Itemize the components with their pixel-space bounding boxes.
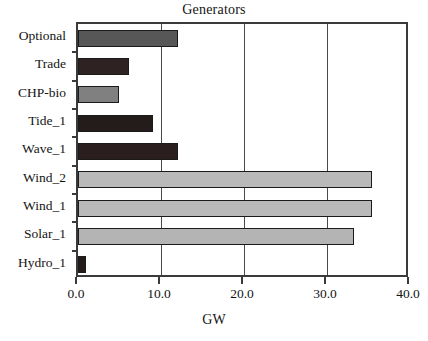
x-axis-tick xyxy=(241,277,243,284)
plot-area xyxy=(76,22,408,277)
x-axis-tick-label: 10.0 xyxy=(129,286,189,302)
y-axis-label-wave-1: Wave_1 xyxy=(0,135,66,163)
y-axis-label-solar-1: Solar_1 xyxy=(0,220,66,248)
bar-wind-1 xyxy=(78,200,372,217)
y-axis-tick xyxy=(72,221,78,223)
y-axis-tick xyxy=(72,193,78,195)
bar-row xyxy=(78,222,354,250)
bar-optional xyxy=(78,30,178,47)
bar-row xyxy=(78,194,372,222)
y-axis-label-trade: Trade xyxy=(0,50,66,78)
bar-row xyxy=(78,166,372,194)
x-axis-ticks xyxy=(76,277,408,285)
bar-row xyxy=(78,81,119,109)
x-axis-tick-label: 40.0 xyxy=(378,286,428,302)
x-axis-tick xyxy=(324,277,326,284)
y-axis-tick xyxy=(72,108,78,110)
bar-row xyxy=(78,109,153,137)
bar-wave-1 xyxy=(78,143,178,160)
x-axis-tick-labels: 0.010.020.030.040.0 xyxy=(0,286,428,306)
y-axis-label-wind-1: Wind_1 xyxy=(0,192,66,220)
x-axis-tick xyxy=(407,277,409,284)
x-axis-tick xyxy=(158,277,160,284)
y-axis-label-optional: Optional xyxy=(0,22,66,50)
y-axis-tick xyxy=(72,136,78,138)
x-axis-tick xyxy=(75,277,77,284)
bar-row xyxy=(78,24,178,52)
bar-chp-bio xyxy=(78,86,119,103)
x-axis-tick-label: 0.0 xyxy=(46,286,106,302)
bar-row xyxy=(78,137,178,165)
y-axis-category-labels: OptionalTradeCHP-bioTide_1Wave_1Wind_2Wi… xyxy=(0,22,72,277)
x-axis-tick-label: 20.0 xyxy=(212,286,272,302)
y-axis-label-chp-bio: CHP-bio xyxy=(0,79,66,107)
x-axis-tick-label: 30.0 xyxy=(295,286,355,302)
y-axis-tick xyxy=(72,51,78,53)
bar-tide-1 xyxy=(78,115,153,132)
bar-solar-1 xyxy=(78,228,354,245)
y-axis-label-tide-1: Tide_1 xyxy=(0,107,66,135)
x-axis-title: GW xyxy=(0,312,428,328)
bar-row xyxy=(78,251,86,279)
y-axis-tick xyxy=(72,250,78,252)
bar-chart: Generators OptionalTradeCHP-bioTide_1Wav… xyxy=(0,0,428,341)
y-axis-tick xyxy=(72,80,78,82)
y-axis-label-hydro-1: Hydro_1 xyxy=(0,249,66,277)
y-axis-label-wind-2: Wind_2 xyxy=(0,164,66,192)
bar-wind-2 xyxy=(78,171,372,188)
y-axis-tick xyxy=(72,165,78,167)
bar-hydro-1 xyxy=(78,256,86,273)
bar-trade xyxy=(78,58,129,75)
chart-title: Generators xyxy=(0,2,428,18)
bar-row xyxy=(78,52,129,80)
